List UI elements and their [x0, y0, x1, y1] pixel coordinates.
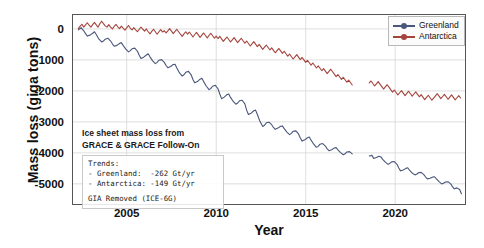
chart-figure: Mass loss (giga tons) 0-1000-2000-3000-4…	[0, 0, 484, 248]
annotation-block: Ice sheet mass loss from GRACE & GRACE F…	[82, 128, 232, 209]
x-tick-label: 2020	[382, 207, 408, 219]
y-tick-label: -3000	[2, 116, 64, 128]
annotation-caption-line2: GRACE & GRACE Follow-On	[82, 140, 232, 152]
legend-item-antarctica[interactable]: Antarctica	[393, 31, 459, 42]
y-tick-label: -5000	[2, 178, 64, 190]
y-tick-label: -4000	[2, 147, 64, 159]
annotation-caption-line1: Ice sheet mass loss from	[82, 128, 232, 140]
trends-box: Trends: - Greenland: -262 Gt/yr - Antarc…	[82, 155, 224, 209]
legend-item-greenland[interactable]: Greenland	[393, 20, 459, 31]
chart-legend: GreenlandAntarctica	[388, 16, 465, 46]
legend-swatch-antarctica-icon	[393, 32, 415, 41]
trends-header: Trends:	[88, 159, 218, 169]
legend-label: Greenland	[419, 20, 459, 31]
trend-antarctica: - Antarctica: -149 Gt/yr	[88, 179, 218, 189]
gia-note: GIA Removed (ICE-6G)	[88, 194, 218, 204]
y-tick-label: 0	[2, 23, 64, 35]
legend-label: Antarctica	[419, 31, 457, 42]
trend-greenland: - Greenland: -262 Gt/yr	[88, 169, 218, 179]
x-axis-label: Year	[72, 222, 466, 238]
y-tick-label: -2000	[2, 85, 64, 97]
x-tick-label: 2015	[293, 207, 319, 219]
legend-swatch-greenland-icon	[393, 21, 415, 30]
y-tick-label: -1000	[2, 54, 64, 66]
